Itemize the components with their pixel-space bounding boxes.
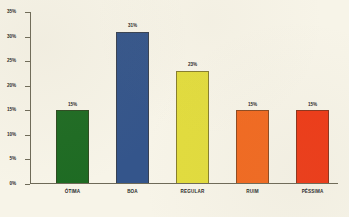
y-axis-label-20: 20%: [0, 84, 16, 89]
y-axis-label-15: 15%: [0, 108, 16, 113]
bar-slot-pessima: 15%: [296, 12, 329, 184]
bar-boa[interactable]: [116, 32, 149, 184]
bar-chart: 0% 5% 10% 15% 20% 25% 30% 35% 15% 31%: [0, 0, 349, 217]
y-tick-mark-5: [25, 159, 30, 160]
bar-value-otima: 15%: [68, 103, 77, 108]
y-axis-label-0: 0%: [0, 182, 16, 187]
y-axis-label-5: 5%: [0, 157, 16, 162]
bar-value-ruim: 15%: [248, 103, 257, 108]
y-tick-mark-10: [25, 135, 30, 136]
bar-regular[interactable]: [176, 71, 209, 184]
bar-value-pessima: 15%: [308, 103, 317, 108]
y-tick-mark-15: [25, 110, 30, 111]
x-axis-line: [30, 183, 338, 184]
y-axis-label-30: 30%: [0, 35, 16, 40]
bar-slot-boa: 31%: [116, 12, 149, 184]
bar-slot-ruim: 15%: [236, 12, 269, 184]
bar-ruim[interactable]: [236, 110, 269, 184]
x-axis-label-ruim: RUIM: [228, 190, 277, 195]
y-tick-mark-35: [25, 12, 30, 13]
plot-area: 0% 5% 10% 15% 20% 25% 30% 35% 15% 31%: [30, 12, 338, 184]
y-axis-label-25: 25%: [0, 59, 16, 64]
bar-value-regular: 23%: [188, 63, 197, 68]
y-axis-label-10: 10%: [0, 133, 16, 138]
x-axis-labels: ÓTIMA BOA REGULAR RUIM PÉSSIMA: [30, 190, 338, 204]
bar-slot-otima: 15%: [56, 12, 89, 184]
bar-slot-regular: 23%: [176, 12, 209, 184]
x-axis-label-boa: BOA: [108, 190, 157, 195]
y-tick-mark-25: [25, 61, 30, 62]
bar-otima[interactable]: [56, 110, 89, 184]
bars-layer: 15% 31% 23% 15% 15%: [30, 12, 338, 184]
x-axis-label-otima: ÓTIMA: [48, 190, 97, 195]
y-tick-mark-20: [25, 86, 30, 87]
y-axis-label-35: 35%: [0, 10, 16, 15]
y-tick-mark-0: [25, 184, 30, 185]
x-axis-label-pessima: PÉSSIMA: [288, 190, 337, 195]
y-tick-mark-30: [25, 37, 30, 38]
bar-pessima[interactable]: [296, 110, 329, 184]
y-axis-line: [30, 12, 31, 184]
x-axis-label-regular: REGULAR: [168, 190, 217, 195]
bar-value-boa: 31%: [128, 24, 137, 29]
